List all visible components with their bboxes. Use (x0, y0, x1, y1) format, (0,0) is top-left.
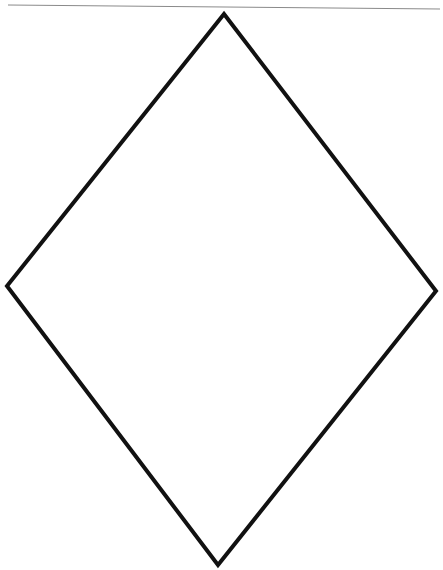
diamond-shape (7, 14, 436, 565)
top-rule-line (8, 5, 440, 9)
diagram-canvas (0, 0, 443, 570)
